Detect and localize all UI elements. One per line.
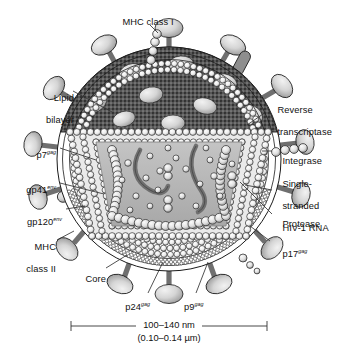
label-gp120: gp120env [0, 203, 62, 228]
label-gp41: gp41env [2, 171, 56, 196]
lower-right-bead-chain [239, 254, 260, 274]
hiv-virion-figure: MHC class I Lipid bilayer p7gag gp41env … [0, 0, 339, 356]
label-mhc-class-ii: MHC class II [4, 231, 56, 275]
label-p17: p17gag [277, 235, 307, 260]
label-lipid-bilayer: Lipid bilayer [8, 82, 74, 126]
label-p7: p7gag [4, 136, 56, 161]
scale-bar-primary: 100–140 nm [136, 320, 202, 332]
label-p24: p24gag [113, 288, 157, 313]
label-core: Core [62, 263, 106, 285]
scale-bar-secondary: (0.10–0.14 µm) [119, 333, 219, 345]
label-mhc-class-i: MHC class I [117, 6, 174, 28]
label-p9: p9gag [169, 288, 213, 313]
label-integrase: Integrase [277, 145, 322, 167]
virion-body [57, 47, 281, 271]
label-protease: Protease [277, 208, 320, 230]
label-reverse-transcriptase: Reverse transcriptase [272, 94, 332, 138]
